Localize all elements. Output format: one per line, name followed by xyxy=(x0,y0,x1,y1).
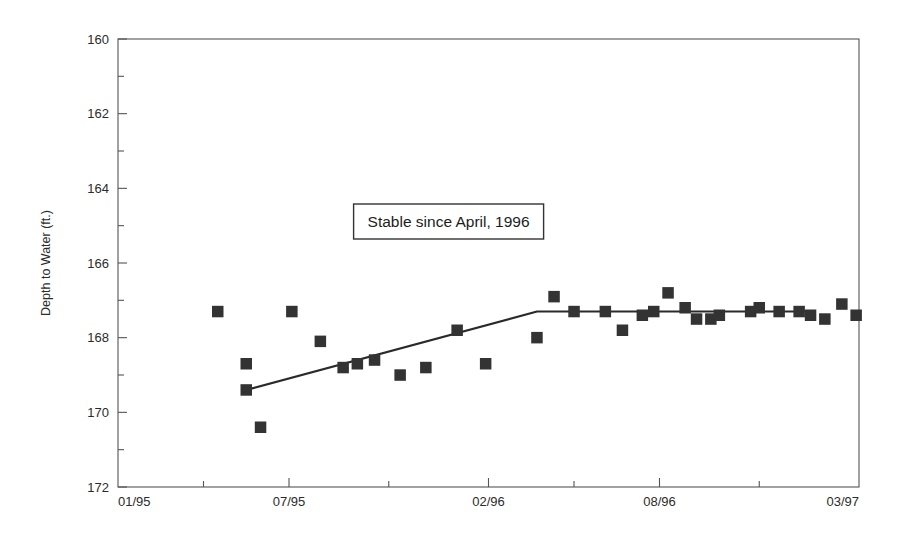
data-point xyxy=(679,302,691,314)
y-tick-label: 172 xyxy=(87,480,109,495)
data-point xyxy=(662,287,674,299)
y-axis-major-ticks xyxy=(118,39,127,487)
data-point xyxy=(805,310,817,322)
x-axis-major-ticks xyxy=(289,478,660,487)
data-point xyxy=(850,310,862,322)
data-point xyxy=(714,310,726,322)
x-tick-label: 02/96 xyxy=(472,494,505,509)
data-point xyxy=(793,306,805,318)
data-point-group xyxy=(212,287,862,433)
data-point xyxy=(773,306,785,318)
annotation-group: Stable since April, 1996 xyxy=(354,204,544,239)
y-tick-label: 166 xyxy=(87,256,109,271)
depth-to-water-chart: 160162164166168170172 01/9507/9502/9608/… xyxy=(0,0,914,545)
y-tick-label: 170 xyxy=(87,405,109,420)
data-point xyxy=(315,336,327,348)
x-tick-label: 07/95 xyxy=(273,494,306,509)
data-point xyxy=(369,354,381,366)
data-point xyxy=(637,310,649,322)
y-tick-label: 160 xyxy=(87,32,109,47)
x-tick-label: 08/96 xyxy=(643,494,676,509)
data-point xyxy=(819,313,831,325)
data-point xyxy=(255,422,266,434)
plot-frame xyxy=(118,39,859,487)
data-point xyxy=(480,358,492,370)
data-point xyxy=(691,313,703,325)
x-axis-tick-labels: 01/9507/9502/9608/9603/97 xyxy=(118,494,859,509)
chart-container: 160162164166168170172 01/9507/9502/9608/… xyxy=(0,0,914,545)
data-point xyxy=(352,358,364,370)
data-point xyxy=(617,325,629,337)
y-axis-tick-labels: 160162164166168170172 xyxy=(87,32,109,495)
data-point xyxy=(568,306,580,318)
y-tick-label: 164 xyxy=(87,181,109,196)
data-point xyxy=(394,369,406,381)
x-axis-minor-ticks xyxy=(204,481,760,487)
data-point xyxy=(600,306,612,318)
annotation-label: Stable since April, 1996 xyxy=(368,213,530,230)
x-tick-label: 01/95 xyxy=(118,494,151,509)
trend-line xyxy=(246,312,810,390)
y-tick-label: 162 xyxy=(87,106,109,121)
x-tick-label: 03/97 xyxy=(826,494,859,509)
data-point xyxy=(241,358,253,370)
data-point xyxy=(212,306,224,318)
data-point xyxy=(420,362,432,374)
data-point xyxy=(337,362,349,374)
data-point xyxy=(241,384,253,396)
data-point xyxy=(836,298,848,310)
y-tick-label: 168 xyxy=(87,330,109,345)
data-point xyxy=(648,306,660,318)
data-point xyxy=(754,302,766,314)
y-axis-title: Depth to Water (ft.) xyxy=(39,210,53,316)
data-point xyxy=(451,325,463,337)
data-point xyxy=(286,306,298,318)
data-point xyxy=(548,291,560,303)
data-point xyxy=(531,332,543,344)
